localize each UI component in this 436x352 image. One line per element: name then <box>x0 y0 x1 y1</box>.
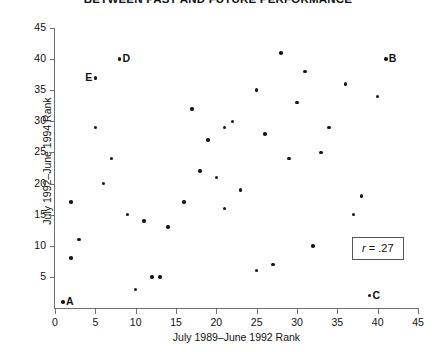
data-point <box>360 194 364 198</box>
data-point <box>271 263 275 267</box>
y-tick-label: 5 <box>24 270 46 282</box>
page-title: BETWEEN PAST AND FUTURE PERFORMANCE <box>0 0 436 5</box>
x-tick-label: 10 <box>121 316 151 328</box>
x-tick-mark <box>257 309 258 314</box>
correlation-symbol: r <box>362 242 366 254</box>
x-tick-mark <box>176 309 177 314</box>
x-tick-label: 35 <box>322 316 352 328</box>
y-tick-label: 40 <box>24 52 46 64</box>
y-tick-label: 20 <box>24 177 46 189</box>
data-point-label-B: B <box>389 52 397 64</box>
x-tick-mark <box>418 309 419 314</box>
data-point-label-C: C <box>373 289 381 301</box>
plot-area <box>55 28 418 308</box>
data-point <box>166 225 170 229</box>
x-tick-mark <box>95 309 96 314</box>
data-point-B <box>384 57 388 61</box>
scatter-plot-figure: BETWEEN PAST AND FUTURE PERFORMANCE July… <box>0 0 436 352</box>
data-point-label-D: D <box>123 52 131 64</box>
data-point <box>158 275 162 279</box>
x-tick-label: 45 <box>403 316 433 328</box>
data-point <box>279 51 283 55</box>
data-point-label-E: E <box>85 71 95 83</box>
data-point-A <box>61 300 65 304</box>
correlation-annotation: r = .27 <box>352 237 404 260</box>
x-tick-mark <box>55 309 56 314</box>
x-axis-line <box>54 308 419 309</box>
data-point <box>190 107 194 111</box>
correlation-value: .27 <box>378 242 393 254</box>
data-point <box>69 256 73 260</box>
x-tick-label: 20 <box>201 316 231 328</box>
y-tick-label: 35 <box>24 83 46 95</box>
x-tick-mark <box>216 309 217 314</box>
data-point-label-A: A <box>66 295 74 307</box>
y-tick-label: 25 <box>24 145 46 157</box>
x-tick-label: 30 <box>282 316 312 328</box>
data-point <box>344 82 348 86</box>
x-tick-label: 15 <box>161 316 191 328</box>
x-tick-mark <box>136 309 137 314</box>
data-point <box>263 132 267 136</box>
x-tick-mark <box>297 309 298 314</box>
data-point <box>69 200 73 204</box>
data-point <box>311 244 315 248</box>
x-tick-mark <box>378 309 379 314</box>
x-tick-label: 25 <box>242 316 272 328</box>
x-axis-title: July 1989–June 1992 Rank <box>55 331 418 343</box>
data-point <box>239 188 243 192</box>
data-point <box>198 169 202 173</box>
data-point <box>142 219 146 223</box>
data-point <box>182 200 186 204</box>
data-point <box>206 138 210 142</box>
y-tick-label: 45 <box>24 21 46 33</box>
data-point <box>150 275 154 279</box>
y-tick-label: 10 <box>24 239 46 251</box>
x-tick-label: 40 <box>363 316 393 328</box>
x-tick-mark <box>337 309 338 314</box>
correlation-operator: = <box>369 242 375 254</box>
x-tick-label: 5 <box>80 316 110 328</box>
y-tick-label: 30 <box>24 114 46 126</box>
x-tick-label: 0 <box>40 316 70 328</box>
y-tick-label: 15 <box>24 208 46 220</box>
